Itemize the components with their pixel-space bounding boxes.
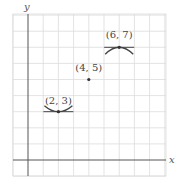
grid-border — [13, 14, 166, 176]
point-label: (2, 3) — [45, 95, 72, 106]
point-marker — [87, 78, 90, 81]
point-label: (4, 5) — [75, 62, 102, 73]
chart: x y (2, 3)(4, 5)(6, 7) — [0, 0, 179, 183]
x-axis-label: x — [169, 154, 175, 165]
point-marker — [57, 110, 60, 113]
y-axis-label: y — [23, 1, 30, 12]
axes: x y — [13, 1, 175, 176]
data-point: (2, 3) — [43, 95, 73, 114]
data-point: (4, 5) — [75, 62, 102, 82]
point-label: (6, 7) — [106, 29, 133, 40]
grid-lines — [13, 14, 166, 176]
point-marker — [118, 46, 121, 49]
